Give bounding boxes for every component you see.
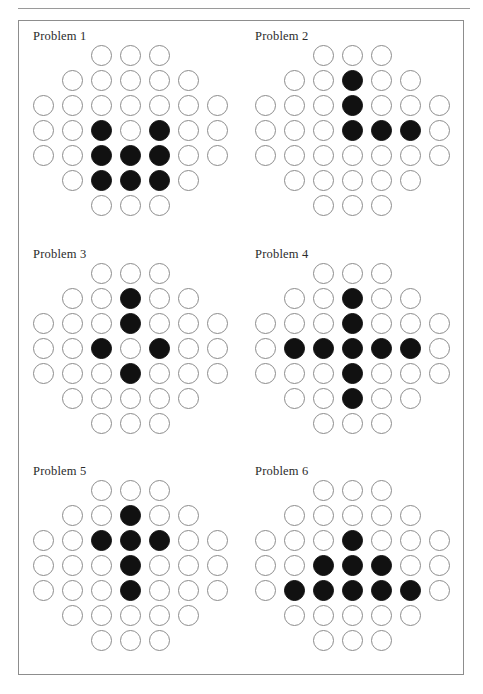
peg-empty-icon[interactable]	[313, 630, 334, 651]
peg-empty-icon[interactable]	[91, 288, 112, 309]
peg-empty-icon[interactable]	[62, 363, 83, 384]
peg-empty-icon[interactable]	[400, 70, 421, 91]
peg-empty-icon[interactable]	[33, 95, 54, 116]
peg-empty-icon[interactable]	[400, 505, 421, 526]
peg-empty-icon[interactable]	[62, 70, 83, 91]
peg-filled-icon[interactable]	[400, 580, 421, 601]
peg-empty-icon[interactable]	[371, 480, 392, 501]
peg-empty-icon[interactable]	[33, 145, 54, 166]
peg-empty-icon[interactable]	[342, 195, 363, 216]
peg-empty-icon[interactable]	[255, 145, 276, 166]
peg-empty-icon[interactable]	[178, 530, 199, 551]
peg-empty-icon[interactable]	[120, 70, 141, 91]
peg-filled-icon[interactable]	[342, 338, 363, 359]
peg-empty-icon[interactable]	[178, 555, 199, 576]
peg-empty-icon[interactable]	[255, 120, 276, 141]
peg-empty-icon[interactable]	[62, 580, 83, 601]
peg-empty-icon[interactable]	[33, 530, 54, 551]
peg-empty-icon[interactable]	[371, 70, 392, 91]
peg-empty-icon[interactable]	[207, 338, 228, 359]
peg-empty-icon[interactable]	[149, 45, 170, 66]
peg-filled-icon[interactable]	[313, 555, 334, 576]
peg-empty-icon[interactable]	[313, 195, 334, 216]
peg-empty-icon[interactable]	[400, 95, 421, 116]
peg-empty-icon[interactable]	[149, 195, 170, 216]
peg-filled-icon[interactable]	[284, 580, 305, 601]
peg-filled-icon[interactable]	[120, 530, 141, 551]
peg-empty-icon[interactable]	[284, 388, 305, 409]
peg-empty-icon[interactable]	[255, 363, 276, 384]
peg-empty-icon[interactable]	[91, 195, 112, 216]
peg-filled-icon[interactable]	[120, 145, 141, 166]
peg-empty-icon[interactable]	[313, 388, 334, 409]
peg-filled-icon[interactable]	[91, 120, 112, 141]
peg-empty-icon[interactable]	[429, 145, 450, 166]
peg-filled-icon[interactable]	[149, 170, 170, 191]
peg-empty-icon[interactable]	[91, 413, 112, 434]
peg-filled-icon[interactable]	[91, 530, 112, 551]
peg-empty-icon[interactable]	[429, 313, 450, 334]
peg-filled-icon[interactable]	[342, 70, 363, 91]
peg-filled-icon[interactable]	[120, 555, 141, 576]
peg-empty-icon[interactable]	[400, 288, 421, 309]
peg-empty-icon[interactable]	[207, 313, 228, 334]
peg-empty-icon[interactable]	[284, 505, 305, 526]
peg-empty-icon[interactable]	[62, 555, 83, 576]
peg-empty-icon[interactable]	[178, 288, 199, 309]
peg-empty-icon[interactable]	[207, 363, 228, 384]
peg-empty-icon[interactable]	[149, 363, 170, 384]
peg-empty-icon[interactable]	[207, 555, 228, 576]
peg-empty-icon[interactable]	[400, 313, 421, 334]
peg-empty-icon[interactable]	[62, 338, 83, 359]
peg-empty-icon[interactable]	[178, 580, 199, 601]
peg-empty-icon[interactable]	[207, 530, 228, 551]
peg-empty-icon[interactable]	[400, 530, 421, 551]
peg-empty-icon[interactable]	[342, 263, 363, 284]
peg-empty-icon[interactable]	[371, 605, 392, 626]
peg-empty-icon[interactable]	[400, 145, 421, 166]
peg-empty-icon[interactable]	[178, 505, 199, 526]
peg-empty-icon[interactable]	[33, 363, 54, 384]
peg-empty-icon[interactable]	[429, 530, 450, 551]
peg-empty-icon[interactable]	[91, 605, 112, 626]
peg-empty-icon[interactable]	[313, 505, 334, 526]
peg-empty-icon[interactable]	[91, 555, 112, 576]
peg-empty-icon[interactable]	[62, 388, 83, 409]
peg-empty-icon[interactable]	[284, 70, 305, 91]
peg-empty-icon[interactable]	[400, 388, 421, 409]
peg-empty-icon[interactable]	[371, 630, 392, 651]
peg-empty-icon[interactable]	[313, 70, 334, 91]
peg-empty-icon[interactable]	[371, 388, 392, 409]
peg-empty-icon[interactable]	[149, 630, 170, 651]
peg-empty-icon[interactable]	[371, 505, 392, 526]
peg-empty-icon[interactable]	[429, 363, 450, 384]
peg-empty-icon[interactable]	[62, 120, 83, 141]
peg-filled-icon[interactable]	[313, 338, 334, 359]
peg-filled-icon[interactable]	[342, 555, 363, 576]
peg-empty-icon[interactable]	[371, 145, 392, 166]
peg-empty-icon[interactable]	[149, 605, 170, 626]
peg-empty-icon[interactable]	[33, 313, 54, 334]
peg-filled-icon[interactable]	[149, 338, 170, 359]
peg-empty-icon[interactable]	[255, 530, 276, 551]
peg-empty-icon[interactable]	[429, 555, 450, 576]
peg-empty-icon[interactable]	[313, 145, 334, 166]
peg-empty-icon[interactable]	[207, 580, 228, 601]
peg-filled-icon[interactable]	[313, 580, 334, 601]
peg-empty-icon[interactable]	[178, 170, 199, 191]
peg-empty-icon[interactable]	[91, 630, 112, 651]
peg-empty-icon[interactable]	[178, 120, 199, 141]
peg-empty-icon[interactable]	[371, 263, 392, 284]
peg-filled-icon[interactable]	[149, 145, 170, 166]
peg-filled-icon[interactable]	[342, 388, 363, 409]
peg-empty-icon[interactable]	[91, 580, 112, 601]
peg-empty-icon[interactable]	[371, 170, 392, 191]
peg-empty-icon[interactable]	[342, 45, 363, 66]
peg-empty-icon[interactable]	[91, 95, 112, 116]
peg-filled-icon[interactable]	[371, 338, 392, 359]
peg-empty-icon[interactable]	[371, 413, 392, 434]
peg-empty-icon[interactable]	[255, 338, 276, 359]
peg-filled-icon[interactable]	[91, 170, 112, 191]
peg-empty-icon[interactable]	[255, 313, 276, 334]
peg-empty-icon[interactable]	[178, 605, 199, 626]
